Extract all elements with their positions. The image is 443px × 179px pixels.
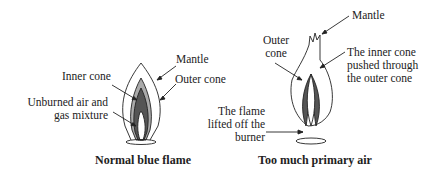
label-outer-cone: Outer cone: [175, 73, 226, 86]
label-outer-cone-right: Outer cone: [261, 34, 291, 60]
normal-flame-icon: [112, 63, 176, 145]
label-flame-lifted: The flame lifted off the burner: [195, 105, 265, 144]
label-inner-pushed: The inner cone pushed through the outer …: [347, 46, 418, 85]
label-mantle: Mantle: [176, 53, 209, 66]
flame-diagrams: [0, 0, 443, 179]
label-mantle-right: Mantle: [352, 9, 385, 22]
caption-normal-blue-flame: Normal blue flame: [95, 153, 191, 168]
label-unburned: Unburned air and gas mixture: [20, 96, 108, 122]
caption-too-much-primary-air: Too much primary air: [258, 153, 372, 168]
label-inner-cone: Inner cone: [62, 70, 111, 83]
